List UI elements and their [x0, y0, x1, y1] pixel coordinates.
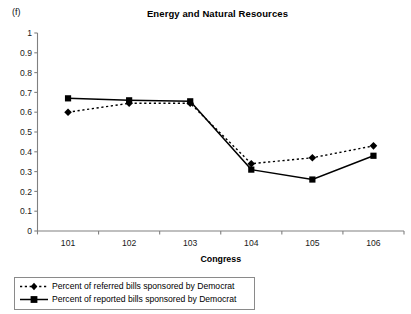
- x-tick-label: 105: [305, 238, 320, 248]
- x-tick-label: 103: [183, 238, 198, 248]
- chart-legend: Percent of referred bills sponsored by D…: [14, 277, 255, 310]
- data-point-marker: [126, 97, 132, 103]
- data-series-group: [64, 95, 377, 182]
- y-tick-label: 0.4: [20, 147, 32, 157]
- y-axis: 00.10.20.30.40.50.60.70.80.91: [20, 28, 37, 236]
- data-point-marker: [370, 142, 378, 150]
- x-tick-label: 106: [366, 238, 381, 248]
- y-tick-label: 0.6: [20, 107, 32, 117]
- legend-key-dotted-diamond: [19, 281, 49, 292]
- y-tick-label: 0: [27, 226, 32, 236]
- y-tick-label: 0.8: [20, 68, 32, 78]
- y-tick-label: 0.9: [20, 48, 32, 58]
- x-axis: 101102103104105106: [38, 231, 405, 248]
- data-point-marker: [309, 154, 317, 162]
- data-point-marker: [309, 176, 315, 182]
- legend-item-reported: Percent of reported bills sponsored by D…: [19, 293, 251, 306]
- series-line-1: [68, 103, 373, 163]
- y-tick-label: 0.1: [20, 206, 32, 216]
- legend-label-reported: Percent of reported bills sponsored by D…: [52, 294, 236, 305]
- y-tick-label: 0.2: [20, 187, 32, 197]
- data-point-marker: [370, 153, 376, 159]
- x-axis-title: Congress: [200, 254, 241, 264]
- y-tick-label: 1: [27, 28, 32, 38]
- data-point-marker: [65, 95, 71, 101]
- data-point-marker: [64, 108, 72, 116]
- chart-plot: 00.10.20.30.40.50.60.70.80.91 1011021031…: [0, 0, 411, 314]
- x-tick-label: 101: [61, 238, 76, 248]
- figure-panel: (f) Energy and Natural Resources 00.10.2…: [0, 0, 411, 314]
- data-point-marker: [187, 98, 193, 104]
- x-tick-label: 102: [122, 238, 137, 248]
- data-point-marker: [248, 167, 254, 173]
- legend-item-referred: Percent of referred bills sponsored by D…: [19, 280, 251, 293]
- x-tick-label: 104: [244, 238, 259, 248]
- legend-key-solid-square: [19, 294, 49, 305]
- y-tick-label: 0.3: [20, 167, 32, 177]
- series-line-2: [68, 98, 373, 179]
- y-tick-label: 0.7: [20, 88, 32, 98]
- y-tick-label: 0.5: [20, 127, 32, 137]
- legend-label-referred: Percent of referred bills sponsored by D…: [52, 281, 234, 292]
